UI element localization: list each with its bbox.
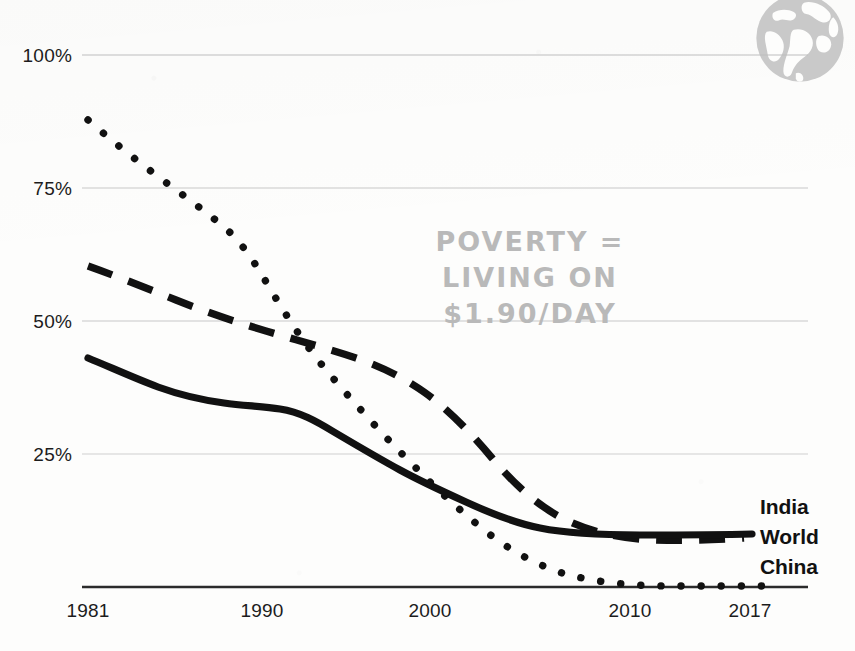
ytick-label-75: 75% [0, 178, 72, 200]
ytick-label-50: 50% [0, 311, 72, 333]
xtick-label-2017: 2017 [705, 600, 795, 622]
xtick-label-1981: 1981 [43, 600, 133, 622]
chart-page: 100% 75% 50% 25% 1981 1990 2000 2010 201… [0, 0, 855, 651]
ytick-label-25: 25% [0, 444, 72, 466]
xtick-label-1990: 1990 [217, 600, 307, 622]
series-line-china [88, 120, 762, 586]
xtick-label-2000: 2000 [385, 600, 475, 622]
xtick-label-2010: 2010 [585, 600, 675, 622]
legend-label-india: India [760, 495, 809, 519]
annotation-line-2: Living on $1.90/day [350, 260, 710, 332]
legend-label-china: China [760, 555, 818, 579]
poverty-definition-annotation: Poverty = Living on $1.90/day [350, 224, 710, 332]
annotation-line-1: Poverty = [350, 224, 710, 260]
series-line-india [88, 358, 752, 535]
ytick-label-100: 100% [0, 45, 72, 67]
legend-label-world: World [760, 525, 819, 549]
